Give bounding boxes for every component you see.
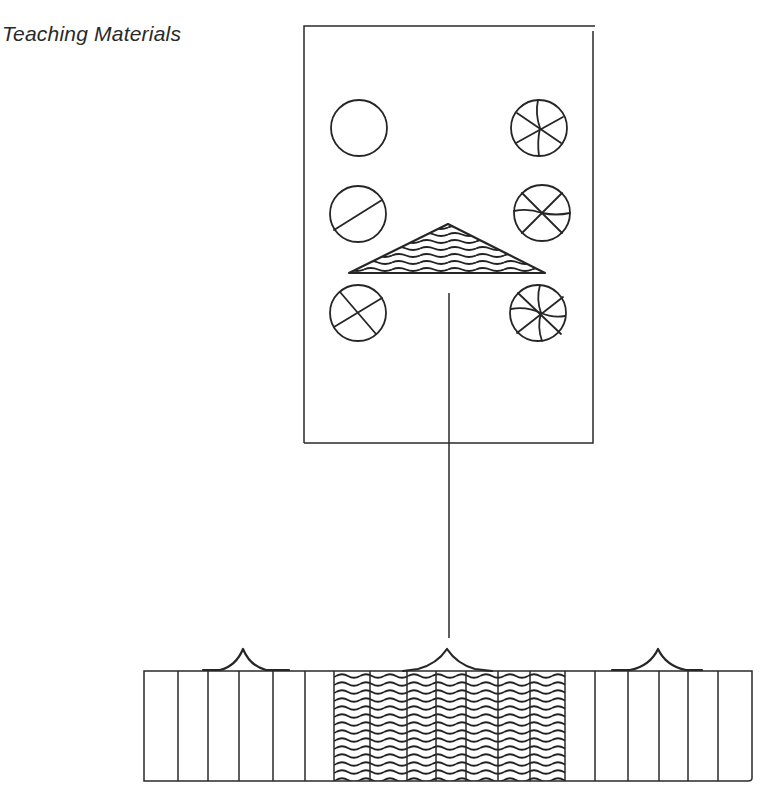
circle-sixths-alt [514,185,570,241]
panel-strip [144,649,752,781]
circle-halves [330,186,386,242]
bump-left [203,649,289,670]
circle-quarters [330,285,386,341]
teaching-diagram [0,0,768,800]
bump-right [612,649,702,670]
circle-eighths [510,285,566,341]
circle-whole [331,100,387,156]
bump-center [403,649,492,671]
circle-sixths [511,100,567,156]
